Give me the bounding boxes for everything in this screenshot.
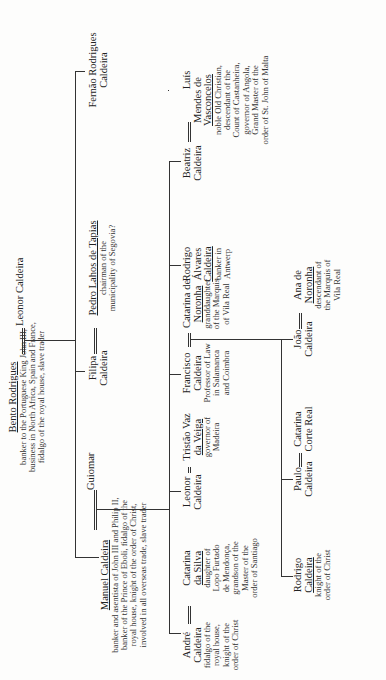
person-filipa-caldeira: Filipa Caldeira	[88, 344, 109, 392]
person-paulo-caldeira: Paulo Caldeira	[293, 456, 314, 502]
marriage-line	[188, 606, 191, 624]
family-tree-page: Bento Rodrigues banker to the Portuguese…	[0, 0, 386, 680]
person-rodrigo-alvares-caldeira: Rodrigo Álvares Caldeira banker in Antwe…	[182, 240, 232, 288]
descent-line	[190, 339, 281, 340]
descent-line-beatriz	[168, 90, 169, 91]
person-rodrigo-caldeira: Rodrigo Caldeira knight of the order of …	[293, 542, 333, 608]
marriage-line	[94, 490, 97, 530]
person-leonor-caldeira: Leonor Caldeira	[15, 246, 26, 326]
sibling-bracket	[281, 339, 282, 577]
person-fernao-rodrigues-caldeira: Fernão Rodrigues Caldeira	[88, 15, 109, 125]
person-pedro-lahos-de-tapias: Pedro Lahos de Tapias chairman of the mu…	[88, 208, 117, 328]
person-ana-de-noronha: Ana de Noronha descendant of the Marquis…	[293, 252, 342, 318]
branch-rodrigo-alvares	[169, 265, 181, 266]
person-leonor-caldeira-gen3: Leonor Caldeira	[182, 470, 203, 514]
branch-guiomar	[75, 557, 99, 558]
person-catarina-corte-real: Catarina Corte Real	[293, 400, 314, 458]
branch-andre	[169, 633, 181, 634]
person-joao-caldeira: João Caldeira	[293, 316, 314, 362]
sibling-bracket	[75, 71, 76, 558]
person-tristao-vaz-da-veiga: Tristão Vaz da Veiga governor of Madeira	[182, 406, 222, 468]
branch-beatriz	[169, 161, 181, 162]
person-catarina-da-silva: Catarina da Silva daughter of Lopo Furta…	[182, 528, 259, 608]
branch-leonor	[169, 491, 181, 492]
sibling-bracket	[169, 161, 170, 634]
person-guiomar: Guiomar	[86, 430, 97, 490]
marriage-line	[94, 328, 97, 354]
branch-francisco	[169, 374, 181, 375]
descent-line	[25, 340, 75, 341]
descent-line	[97, 509, 169, 510]
branch-fernao	[75, 71, 85, 72]
person-luis-mendes-de-vasconcelos: Luís Mendes de Vasconcelos noble Old Chr…	[182, 40, 270, 160]
branch-filipa	[75, 371, 85, 372]
marriage-line	[22, 328, 25, 354]
